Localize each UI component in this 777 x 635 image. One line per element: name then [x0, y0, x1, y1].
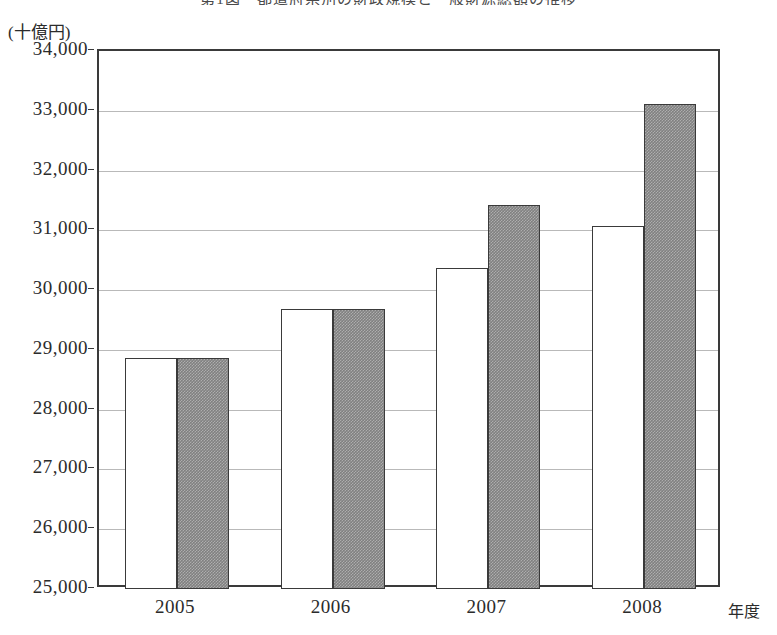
- y-tick-label: 31,000: [33, 217, 88, 239]
- x-tick-label-2005: 2005: [155, 596, 195, 618]
- y-tick-mark: [88, 288, 94, 289]
- bar-2007-series-1-white: [436, 268, 488, 589]
- y-tick-mark: [88, 527, 94, 528]
- x-tick-label-2006: 2006: [311, 596, 351, 618]
- y-tick-label: 34,000: [33, 38, 88, 60]
- y-tick-label: 27,000: [33, 456, 88, 478]
- x-tick-label-2008: 2008: [622, 596, 662, 618]
- y-tick-label: 29,000: [33, 337, 88, 359]
- bar-2005-series-2-gray: [177, 358, 229, 589]
- bar-2007-series-2-gray: [488, 205, 540, 589]
- y-tick-mark: [88, 408, 94, 409]
- chart-title: 第1図 都道府県別の財政規模と一般財源総額の推移: [0, 0, 777, 5]
- bar-2006-series-1-white: [281, 309, 333, 589]
- bars-layer: [99, 51, 718, 585]
- bar-2006-series-2-gray: [333, 309, 385, 589]
- y-axis: 34,00033,00032,00031,00030,00029,00028,0…: [0, 49, 88, 587]
- y-tick-label: 30,000: [33, 277, 88, 299]
- y-tick-label: 25,000: [33, 576, 88, 598]
- y-tick-mark: [88, 169, 94, 170]
- plot-area: [97, 49, 720, 587]
- bar-2005-series-1-white: [125, 358, 177, 589]
- y-tick-label: 33,000: [33, 98, 88, 120]
- y-tick-label: 26,000: [33, 516, 88, 538]
- x-axis-title: 年度: [728, 598, 760, 622]
- y-tick-label: 32,000: [33, 158, 88, 180]
- bar-2008-series-1-white: [592, 226, 644, 589]
- y-tick-mark: [88, 587, 94, 588]
- x-axis: 2005200620072008: [97, 596, 720, 626]
- y-tick-label: 28,000: [33, 397, 88, 419]
- y-tick-mark: [88, 348, 94, 349]
- y-tick-mark: [88, 109, 94, 110]
- x-tick-label-2007: 2007: [466, 596, 506, 618]
- y-tick-mark: [88, 467, 94, 468]
- bar-2008-series-2-gray: [644, 104, 696, 589]
- y-tick-mark: [88, 228, 94, 229]
- y-tick-mark: [88, 49, 94, 50]
